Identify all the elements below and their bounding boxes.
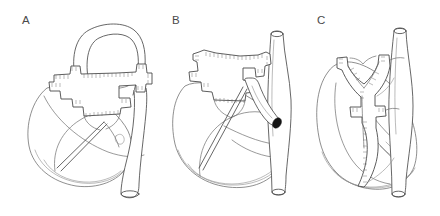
- figure-canvas: A: [0, 0, 440, 216]
- panel-a-label: A: [22, 14, 30, 26]
- panel-c-label: C: [317, 14, 326, 26]
- figure-root: A: [0, 0, 440, 216]
- panel-b-label: B: [172, 14, 180, 26]
